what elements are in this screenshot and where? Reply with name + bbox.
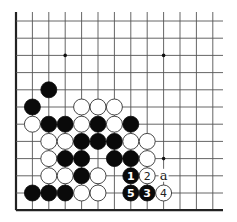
white-stone-disc bbox=[41, 151, 57, 167]
black-stone-disc bbox=[106, 151, 122, 167]
move-number: 3 bbox=[143, 187, 151, 200]
black-stone bbox=[57, 185, 73, 201]
white-stone bbox=[139, 133, 155, 149]
black-stone-disc bbox=[123, 116, 139, 132]
go-board-diagram: 12534 a bbox=[0, 0, 237, 222]
white-stone bbox=[57, 133, 73, 149]
black-stone-disc bbox=[41, 82, 57, 98]
white-stone-disc bbox=[90, 99, 106, 115]
black-stone bbox=[90, 133, 106, 149]
white-stone bbox=[74, 99, 90, 115]
white-stone-disc bbox=[41, 133, 57, 149]
black-stone bbox=[57, 151, 73, 167]
star-point bbox=[162, 54, 166, 58]
white-stone-disc bbox=[57, 133, 73, 149]
move-number: 5 bbox=[127, 187, 135, 200]
black-stone-disc bbox=[57, 151, 73, 167]
white-stone-disc bbox=[24, 116, 40, 132]
white-stone-disc bbox=[41, 168, 57, 184]
black-stone bbox=[74, 151, 90, 167]
white-stone-disc bbox=[139, 133, 155, 149]
black-stone bbox=[74, 168, 90, 184]
black-stone-disc bbox=[24, 185, 40, 201]
black-stone-disc bbox=[106, 133, 122, 149]
black-stone bbox=[123, 116, 139, 132]
white-stone-disc bbox=[57, 168, 73, 184]
white-stone bbox=[41, 168, 57, 184]
black-stone bbox=[41, 82, 57, 98]
black-stone bbox=[106, 133, 122, 149]
white-stone-disc bbox=[90, 168, 106, 184]
move-number: 1 bbox=[127, 170, 135, 183]
black-stone-disc bbox=[57, 185, 73, 201]
black-stone-disc bbox=[41, 185, 57, 201]
star-point bbox=[162, 157, 166, 161]
point-labels: a bbox=[159, 168, 169, 183]
white-stone bbox=[123, 133, 139, 149]
white-stone-disc bbox=[139, 151, 155, 167]
move-number: 2 bbox=[144, 170, 151, 183]
black-stone-disc bbox=[74, 151, 90, 167]
black-stone bbox=[41, 185, 57, 201]
black-stone bbox=[106, 151, 122, 167]
white-stone bbox=[139, 151, 155, 167]
white-stone bbox=[106, 99, 122, 115]
black-stone-disc bbox=[41, 116, 57, 132]
white-stone-disc bbox=[74, 99, 90, 115]
white-stone: 4 bbox=[156, 185, 172, 201]
white-stone bbox=[41, 133, 57, 149]
white-stone-disc bbox=[123, 133, 139, 149]
white-stone bbox=[90, 168, 106, 184]
white-stone bbox=[90, 99, 106, 115]
white-stone-disc bbox=[106, 99, 122, 115]
black-stone bbox=[123, 151, 139, 167]
black-stone bbox=[74, 133, 90, 149]
star-point bbox=[63, 54, 67, 58]
black-stone-disc bbox=[123, 151, 139, 167]
point-label: a bbox=[159, 168, 169, 183]
black-stone-disc bbox=[90, 116, 106, 132]
white-stone: 2 bbox=[139, 168, 155, 184]
black-stone-disc bbox=[74, 168, 90, 184]
white-stone-disc bbox=[90, 185, 106, 201]
black-stone bbox=[24, 99, 40, 115]
white-stone bbox=[106, 116, 122, 132]
white-stone bbox=[57, 168, 73, 184]
point-label-text: a bbox=[160, 168, 168, 183]
black-stone-disc bbox=[24, 99, 40, 115]
black-stone bbox=[57, 116, 73, 132]
stones: 12534 bbox=[24, 82, 171, 201]
white-stone-disc bbox=[74, 116, 90, 132]
white-stone-disc bbox=[106, 116, 122, 132]
white-stone bbox=[74, 185, 90, 201]
black-stone: 3 bbox=[139, 185, 155, 201]
black-stone-disc bbox=[57, 116, 73, 132]
move-number: 4 bbox=[160, 187, 167, 200]
black-stone bbox=[41, 116, 57, 132]
white-stone bbox=[90, 185, 106, 201]
black-stone: 5 bbox=[123, 185, 139, 201]
white-stone-disc bbox=[74, 185, 90, 201]
white-stone bbox=[74, 116, 90, 132]
black-stone-disc bbox=[74, 133, 90, 149]
black-stone bbox=[24, 185, 40, 201]
black-stone-disc bbox=[90, 133, 106, 149]
white-stone bbox=[41, 151, 57, 167]
white-stone bbox=[24, 116, 40, 132]
black-stone: 1 bbox=[123, 168, 139, 184]
black-stone bbox=[90, 116, 106, 132]
